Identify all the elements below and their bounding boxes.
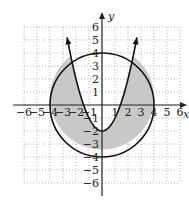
y-tick-label: −2 xyxy=(83,125,99,138)
y-tick-label: −5 xyxy=(83,164,99,177)
x-tick-label: 3 xyxy=(138,106,145,119)
y-tick-label: 6 xyxy=(92,21,99,34)
axes xyxy=(13,12,187,196)
x-tick-label: 4 xyxy=(151,106,158,119)
y-tick-label: 3 xyxy=(92,60,99,73)
x-axis-label: x xyxy=(183,108,189,121)
y-axis-label: y xyxy=(107,10,115,23)
x-tick-label: 1 xyxy=(112,106,119,119)
graph: −6−5−4−3−2−1123456654321−1−2−3−4−5−6 x y xyxy=(0,0,189,200)
y-axis-arrow-icon xyxy=(99,12,105,19)
y-tick-label: −4 xyxy=(83,151,99,164)
x-tick-label: 5 xyxy=(164,106,171,119)
y-tick-label: −1 xyxy=(83,112,99,125)
parabola-arrow-right-icon xyxy=(133,37,139,44)
x-tick-label: 2 xyxy=(125,106,132,119)
y-tick-label: 5 xyxy=(92,34,99,47)
y-tick-label: 2 xyxy=(92,73,99,86)
y-tick-label: −6 xyxy=(83,177,99,190)
y-tick-label: 1 xyxy=(92,86,99,99)
parabola-arrow-left-icon xyxy=(65,37,71,44)
y-tick-label: 4 xyxy=(92,47,99,60)
y-tick-label: −3 xyxy=(83,138,99,151)
